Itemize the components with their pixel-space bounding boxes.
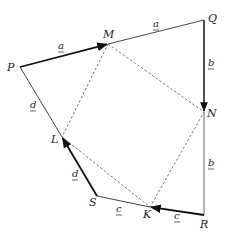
svg-text:b: b <box>208 157 214 168</box>
dashed-quadrilateral-MNKL <box>62 44 204 207</box>
svg-text:a: a <box>58 40 64 51</box>
vertex-label-M: M <box>102 28 115 41</box>
vector-label-a-PM: a <box>58 40 64 52</box>
vector-label-c-KS: c <box>116 203 122 215</box>
vertex-label-L: L <box>50 133 58 146</box>
vector-label-d-SL: d <box>72 168 78 180</box>
vector-label-b-NR: b <box>208 157 214 169</box>
vertex-label-P: P <box>6 61 15 74</box>
vector-label-b-QN: b <box>208 57 214 69</box>
vertex-label-S: S <box>89 196 97 209</box>
vertex-label-N: N <box>206 107 217 120</box>
segment-LP <box>20 67 62 137</box>
vertex-label-Q: Q <box>208 12 217 25</box>
svg-text:c: c <box>116 203 122 214</box>
vector-label-a-MQ: a <box>153 18 159 30</box>
vector-label-c-RK: c <box>174 210 180 222</box>
svg-text:a: a <box>153 18 159 29</box>
svg-text:d: d <box>72 168 78 179</box>
vertex-label-K: K <box>142 208 152 221</box>
svg-text:c: c <box>174 210 180 221</box>
segment-KS <box>97 196 150 207</box>
vector-quadrilateral-diagram: P M Q N R K S L a a b b c c d d <box>0 0 229 237</box>
svg-text:b: b <box>208 57 214 68</box>
vector-SL <box>63 138 97 196</box>
svg-text:d: d <box>30 99 36 110</box>
vertex-label-R: R <box>199 218 208 231</box>
vector-label-d-LP: d <box>30 99 36 111</box>
